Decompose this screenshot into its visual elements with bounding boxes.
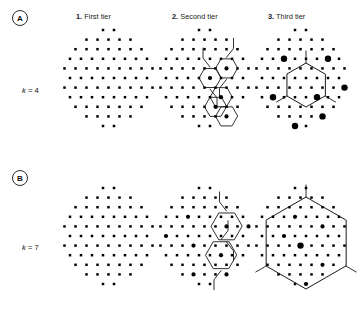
column-header-2-number: 2. (172, 12, 178, 21)
lattice-dot (129, 196, 132, 199)
lattice-dot (124, 77, 127, 80)
lattice-dot (198, 187, 201, 190)
lattice-dot (113, 187, 116, 190)
lattice-dot (316, 216, 319, 219)
lattice-svg (166, 30, 266, 148)
lattice-dot (247, 244, 250, 247)
lattice-dot (159, 86, 162, 89)
lattice-dot (310, 38, 313, 41)
cluster-center-dot (292, 123, 298, 129)
panel-badge-a: A (12, 10, 28, 26)
lattice-dot (159, 244, 162, 247)
lattice-dot (176, 96, 179, 99)
lattice-dot (316, 254, 319, 257)
lattice-dot (107, 115, 110, 118)
lattice-dot (214, 48, 217, 51)
lattice-dot (107, 264, 110, 267)
cluster-center-dot (224, 114, 228, 118)
lattice-dot (225, 86, 228, 89)
lattice-dot (146, 58, 149, 61)
lattice-dot (288, 106, 291, 109)
lattice-dot (63, 225, 66, 228)
lattice-dot (310, 115, 313, 118)
lattice-dot (343, 244, 346, 247)
lattice-dot (299, 86, 302, 89)
lattice-dot (299, 67, 302, 70)
lattice-dot (124, 254, 127, 257)
lattice-dot (181, 273, 184, 276)
lattice-dot (266, 264, 269, 267)
lattice-dot (225, 264, 228, 267)
lattice-dot (327, 216, 330, 219)
lattice-dot (236, 264, 239, 267)
lattice-dot (338, 96, 341, 99)
lattice-dot (140, 225, 143, 228)
lattice-dot (170, 206, 173, 209)
lattice-dot (203, 38, 206, 41)
lattice-dot (343, 225, 346, 228)
lattice-dot (225, 38, 228, 41)
lattice-dot (209, 235, 212, 238)
lattice-dot (332, 225, 335, 228)
lattice-dot (198, 283, 201, 286)
lattice-dot (321, 106, 324, 109)
lattice-dot (305, 96, 308, 99)
lattice-dot (74, 244, 77, 247)
lattice-dot (102, 283, 105, 286)
lattice-dot (146, 96, 149, 99)
lattice-dot (225, 196, 228, 199)
lattice-dot (69, 216, 72, 219)
lattice-dot (272, 235, 275, 238)
lattice-dot (140, 206, 143, 209)
lattice-dot (85, 264, 88, 267)
lattice-svg (70, 30, 170, 148)
lattice-dot (277, 264, 280, 267)
lattice-dot (236, 67, 239, 70)
lattice-dot (118, 196, 121, 199)
lattice-dot (332, 86, 335, 89)
lattice-dot (266, 206, 269, 209)
lattice-dot (310, 67, 313, 70)
lattice-dot (305, 77, 308, 80)
column-header-second-tier: 2. Second tier (172, 12, 218, 21)
lattice-dot (236, 206, 239, 209)
lattice-dot (107, 48, 110, 51)
lattice-dot (159, 67, 162, 70)
cluster-center-dot (224, 272, 228, 276)
lattice-dot (266, 86, 269, 89)
lattice-dot (176, 254, 179, 257)
lattice-dot (299, 264, 302, 267)
lattice-dots (159, 29, 250, 128)
lattice-dot (209, 187, 212, 190)
lattice-dot (192, 264, 195, 267)
lattice-dot (63, 67, 66, 70)
lattice-dot (85, 225, 88, 228)
lattice-dot (288, 86, 291, 89)
lattice-dot (124, 96, 127, 99)
lattice-dot (247, 86, 250, 89)
lattice-dot (187, 254, 190, 257)
lattice-dot (198, 125, 201, 128)
lattice-dot (118, 115, 121, 118)
row-label-k4: k = 4 (22, 86, 39, 95)
lattice-dot (187, 96, 190, 99)
lattice-dot (332, 48, 335, 51)
lattice-dot (261, 77, 264, 80)
lattice-dot (135, 235, 138, 238)
cluster-center-dot (314, 94, 320, 100)
lattice-dot (74, 225, 77, 228)
lattice-dot (85, 38, 88, 41)
column-header-2-label: Second tier (180, 12, 217, 21)
lattice-dot (181, 206, 184, 209)
lattice-dot (192, 225, 195, 228)
lattice-dot (220, 77, 223, 80)
lattice-dot (165, 77, 168, 80)
plot-k7-third-tier (262, 188, 360, 306)
lattice-dot (203, 86, 206, 89)
lattice-dot (140, 48, 143, 51)
lattice-dot (231, 58, 234, 61)
lattice-dot (225, 48, 228, 51)
lattice-dot (165, 58, 168, 61)
lattice-dot (310, 86, 313, 89)
lattice-dot (294, 235, 297, 238)
